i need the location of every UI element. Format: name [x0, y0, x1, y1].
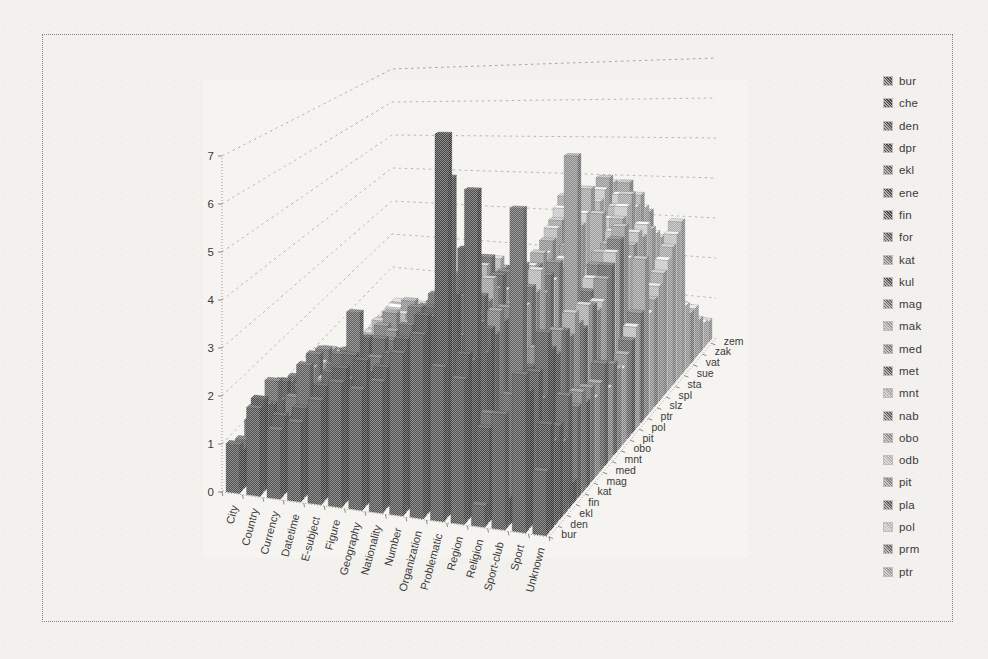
- legend-marker-icon: [884, 523, 892, 531]
- legend-item: den: [884, 115, 948, 137]
- legend-marker-icon: [884, 389, 892, 397]
- value-tick-label: 2: [208, 390, 214, 402]
- legend-label: bur: [899, 75, 916, 87]
- legend-label: kat: [899, 254, 915, 266]
- legend-label: mnt: [899, 387, 919, 399]
- legend-label: for: [899, 231, 913, 243]
- legend-marker-icon: [884, 568, 892, 576]
- legend-item: mag: [884, 293, 948, 315]
- value-tick-label: 0: [208, 486, 214, 498]
- legend-item: mak: [884, 315, 948, 337]
- value-tick-label: 1: [208, 438, 214, 450]
- legend-item: med: [884, 338, 948, 360]
- depth-label: vat: [706, 356, 720, 368]
- legend-item: che: [884, 92, 948, 114]
- depth-label: pol: [652, 421, 666, 433]
- depth-label: sta: [688, 378, 702, 390]
- legend-label: mag: [899, 298, 922, 310]
- legend-label: mak: [899, 320, 921, 332]
- legend-label: odb: [899, 454, 919, 466]
- value-tick-label: 6: [208, 198, 214, 210]
- legend-marker-icon: [884, 345, 892, 353]
- legend-marker-icon: [884, 456, 892, 464]
- legend-item: obo: [884, 427, 948, 449]
- legend-marker-icon: [884, 189, 892, 197]
- legend-label: pit: [899, 476, 912, 488]
- depth-label: obo: [634, 442, 652, 454]
- legend-item: dpr: [884, 137, 948, 159]
- legend-marker-icon: [884, 478, 892, 486]
- legend-marker-icon: [884, 278, 892, 286]
- legend-item: mnt: [884, 382, 948, 404]
- legend-item: pol: [884, 516, 948, 538]
- legend-marker-icon: [884, 233, 892, 241]
- legend-marker-icon: [884, 434, 892, 442]
- value-tick-label: 5: [208, 246, 214, 258]
- legend-label: che: [899, 97, 918, 109]
- legend-item: kat: [884, 248, 948, 270]
- legend-item: bur: [884, 70, 948, 92]
- legend-item: kul: [884, 271, 948, 293]
- legend-item: met: [884, 360, 948, 382]
- legend-marker-icon: [884, 367, 892, 375]
- value-tick-label: 7: [208, 150, 214, 162]
- depth-label: zak: [715, 345, 732, 357]
- depth-label: mnt: [624, 453, 642, 465]
- legend-label: ekl: [899, 164, 914, 176]
- legend-marker-icon: [884, 211, 892, 219]
- legend-marker-icon: [884, 256, 892, 264]
- 3d-bar-chart-canvas: 01234567CityCountryCurrencyDatetimeE-sub…: [0, 0, 988, 659]
- depth-label: zem: [724, 335, 744, 347]
- depth-label: fin: [588, 496, 599, 508]
- legend-item: prm: [884, 538, 948, 560]
- legend-item: pla: [884, 494, 948, 516]
- depth-label: pit: [643, 432, 654, 444]
- legend-label: obo: [899, 432, 919, 444]
- legend-label: pla: [899, 499, 915, 511]
- legend-marker-icon: [884, 77, 892, 85]
- legend-marker-icon: [884, 322, 892, 330]
- depth-label: kat: [597, 485, 611, 497]
- legend-label: den: [899, 120, 919, 132]
- legend-item: ekl: [884, 159, 948, 181]
- legend-label: kul: [899, 276, 914, 288]
- legend-marker-icon: [884, 300, 892, 308]
- legend-marker-icon: [884, 166, 892, 174]
- legend-marker-icon: [884, 144, 892, 152]
- legend-label: med: [899, 343, 922, 355]
- legend-marker-icon: [884, 99, 892, 107]
- halftone-overlay: [203, 80, 748, 558]
- legend-item: for: [884, 226, 948, 248]
- legend-marker-icon: [884, 412, 892, 420]
- depth-label: den: [570, 518, 588, 530]
- depth-label: ekl: [579, 507, 592, 519]
- legend-item: nab: [884, 404, 948, 426]
- legend-label: fin: [899, 209, 912, 221]
- legend-marker-icon: [884, 501, 892, 509]
- value-tick-label: 3: [208, 342, 214, 354]
- legend-item: odb: [884, 449, 948, 471]
- value-tick-label: 4: [208, 294, 215, 306]
- legend-item: pit: [884, 471, 948, 493]
- legend-label: ptr: [899, 566, 913, 578]
- legend-marker-icon: [884, 122, 892, 130]
- depth-label: sue: [697, 367, 714, 379]
- legend-label: ene: [899, 187, 919, 199]
- depth-label: slz: [670, 399, 683, 411]
- legend-label: prm: [899, 543, 919, 555]
- depth-label: med: [615, 464, 636, 476]
- legend-label: dpr: [899, 142, 916, 154]
- legend-label: met: [899, 365, 919, 377]
- legend-label: nab: [899, 410, 919, 422]
- scanned-page: 01234567CityCountryCurrencyDatetimeE-sub…: [0, 0, 988, 659]
- legend-label: pol: [899, 521, 915, 533]
- legend-item: ene: [884, 181, 948, 203]
- depth-label: ptr: [661, 410, 674, 422]
- legend-item: ptr: [884, 561, 948, 583]
- chart-legend: burchedendpreklenefinforkatkulmagmakmedm…: [884, 70, 948, 583]
- legend-marker-icon: [884, 545, 892, 553]
- depth-label: spl: [679, 389, 692, 401]
- depth-label: mag: [606, 475, 627, 487]
- depth-label: bur: [561, 528, 577, 540]
- legend-item: fin: [884, 204, 948, 226]
